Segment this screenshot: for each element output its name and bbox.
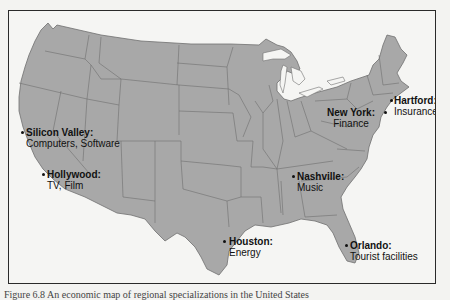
label-hollywood: Hollywood: TV, Film: [47, 169, 101, 191]
city-name: Orlando:: [350, 240, 392, 251]
label-hartford: Hartford: Insurance: [394, 95, 436, 117]
industry-name: TV, Film: [47, 180, 101, 191]
city-name: Hartford:: [394, 95, 436, 106]
city-marker-hartford: [390, 99, 393, 102]
label-new-york: New York: Finance: [327, 107, 375, 129]
label-orlando: Orlando: Tourist facilities: [350, 240, 418, 262]
city-name: Silicon Valley:: [26, 127, 93, 138]
label-houston: Houston: Energy: [229, 236, 273, 258]
city-name: Nashville:: [297, 171, 344, 182]
industry-name: Music: [297, 182, 344, 193]
city-marker-houston: [223, 240, 226, 243]
figure-caption: Figure 6.8 An economic map of regional s…: [4, 289, 309, 300]
city-name: Houston:: [229, 236, 273, 247]
city-name: Hollywood:: [47, 169, 101, 180]
city-marker-hollywood: [42, 173, 45, 176]
city-marker-new-york: [384, 111, 387, 114]
industry-name: Insurance: [394, 106, 436, 117]
city-marker-nashville: [292, 175, 295, 178]
city-marker-silicon-valley: [21, 131, 24, 134]
us-landmass: [19, 23, 409, 275]
industry-name: Energy: [229, 247, 273, 258]
lake-huron: [291, 67, 305, 85]
map-frame: Silicon Valley: Computers, Software Holl…: [8, 10, 436, 284]
city-marker-orlando: [345, 244, 348, 247]
label-silicon-valley: Silicon Valley: Computers, Software: [26, 127, 120, 149]
industry-name: Computers, Software: [26, 138, 120, 149]
industry-name: Tourist facilities: [350, 251, 418, 262]
lake-ontario: [327, 77, 345, 85]
industry-name: Finance: [327, 118, 375, 129]
city-name: New York:: [327, 107, 375, 118]
label-nashville: Nashville: Music: [297, 171, 344, 193]
